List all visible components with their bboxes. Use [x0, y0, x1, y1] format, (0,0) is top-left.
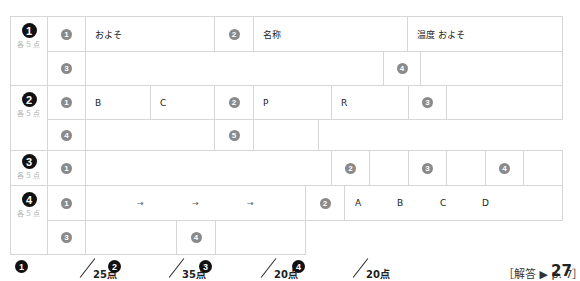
item-number-badge: 2 [320, 198, 331, 209]
arrow-icon: → [247, 199, 254, 208]
q3-item-1-number: 1 [47, 150, 86, 186]
answer-prefix-text: R [341, 98, 347, 108]
choice-letter: A [355, 198, 361, 208]
q2-item-2-number: 2 [214, 85, 254, 120]
score-question-badge: 3 [199, 260, 212, 273]
answer-prefix-text: B [95, 98, 101, 108]
item-number-badge: 5 [229, 130, 240, 141]
q4-answer-3[interactable] [85, 220, 177, 255]
points-each-label: 各５点 [17, 39, 41, 49]
q4-item-4-number: 4 [176, 220, 216, 255]
q1-item-1-number: 1 [47, 16, 86, 52]
q4-item-1-number: 1 [47, 185, 86, 221]
answer-prefix-text: P [263, 98, 268, 108]
item-number-badge: 1 [61, 97, 72, 108]
q3-item-4-number: 4 [485, 150, 524, 186]
q1-answer-1[interactable]: およそ [85, 16, 215, 52]
answer-prefix-text: 温度 およそ [417, 28, 465, 41]
choice-letter: D [482, 198, 489, 208]
arrow-icon: → [192, 199, 199, 208]
page-number: 27 [551, 262, 572, 280]
q3-item-2-number: 2 [331, 150, 370, 186]
question-3-header: 3 各５点 [10, 150, 48, 186]
q4-item-2-number: 2 [305, 185, 345, 221]
question-number-badge: 1 [22, 23, 37, 38]
question-4-header: 4 各５点 [10, 185, 48, 255]
q2-answer-1-c[interactable]: C [150, 85, 215, 120]
answer-prefix-text: およそ [95, 28, 122, 41]
q1-answer-2[interactable]: 名称 [253, 16, 408, 52]
q4-answer-1[interactable]: → → → [85, 185, 306, 221]
q1-answer-2b[interactable]: 温度 およそ [407, 16, 563, 52]
score-max: 20点 [366, 266, 390, 281]
q1-answer-4[interactable] [420, 51, 563, 86]
item-number-badge: 3 [422, 163, 433, 174]
question-2-header: 2 各５点 [10, 85, 48, 151]
item-number-badge: 3 [61, 232, 72, 243]
q1-item-2-number: 2 [214, 16, 254, 52]
choice-letter: B [397, 198, 403, 208]
q3-answer-1[interactable] [85, 150, 332, 186]
question-number-badge: 4 [22, 192, 37, 207]
item-number-badge: 4 [499, 163, 510, 174]
q1-item-3-number: 3 [47, 51, 86, 86]
q3-answer-2[interactable] [369, 150, 409, 186]
q2-item-1-number: 1 [47, 85, 86, 120]
q2-item-3-number: 3 [408, 85, 447, 120]
score-box-4: 4 20点 [292, 258, 402, 279]
item-number-badge: 4 [61, 130, 72, 141]
item-number-badge: 3 [422, 97, 433, 108]
points-each-label: 各５点 [17, 208, 41, 218]
points-each-label: 各５点 [17, 170, 41, 180]
score-question-badge: 2 [108, 260, 121, 273]
answer-prefix-text: C [160, 98, 166, 108]
choice-letter: C [440, 198, 446, 208]
q1-item-4-number: 4 [383, 51, 421, 86]
q4-answer-2[interactable]: A B C D [344, 185, 563, 221]
q2-answer-1-b[interactable]: B [85, 85, 151, 120]
q2-answer-3[interactable] [446, 85, 563, 120]
q1-answer-3[interactable] [85, 51, 384, 86]
q2-item-5-number: 5 [214, 119, 254, 151]
q3-answer-3[interactable] [446, 150, 486, 186]
q2-answer-2-r[interactable]: R [331, 85, 409, 120]
score-question-badge: 4 [292, 260, 305, 273]
points-each-label: 各５点 [17, 108, 41, 118]
question-number-badge: 3 [22, 154, 37, 169]
item-number-badge: 3 [61, 63, 72, 74]
question-1-header: 1 各５点 [10, 16, 48, 86]
score-question-badge: 1 [15, 260, 28, 273]
item-number-badge: 4 [397, 63, 408, 74]
q3-item-3-number: 3 [408, 150, 447, 186]
q2-answer-5[interactable] [253, 119, 319, 151]
item-number-badge: 2 [345, 163, 356, 174]
arrow-icon: → [137, 199, 144, 208]
item-number-badge: 4 [191, 232, 202, 243]
item-number-badge: 2 [229, 97, 240, 108]
q2-answer-4[interactable] [85, 119, 215, 151]
item-number-badge: 1 [61, 198, 72, 209]
item-number-badge: 2 [229, 29, 240, 40]
question-number-badge: 2 [22, 92, 37, 107]
q2-item-4-number: 4 [47, 119, 86, 151]
q4-answer-4[interactable] [215, 220, 306, 255]
q3-answer-4[interactable] [523, 150, 563, 186]
item-number-badge: 1 [61, 163, 72, 174]
answer-prefix-text: 名称 [263, 28, 281, 41]
item-number-badge: 1 [61, 29, 72, 40]
q2-answer-2-p[interactable]: P [253, 85, 332, 120]
q4-item-3-number: 3 [47, 220, 86, 255]
